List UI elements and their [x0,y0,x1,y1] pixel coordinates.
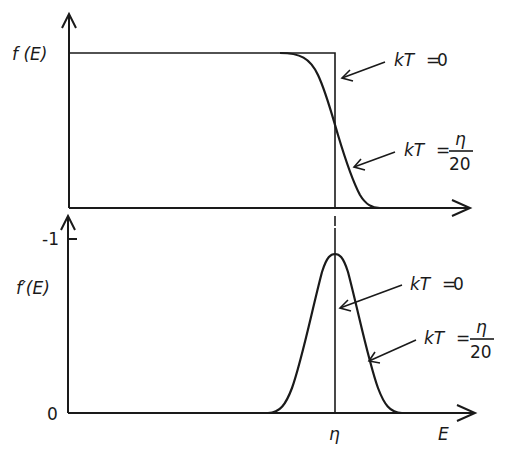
top-annot-kt0-kt: kT [394,50,416,70]
bottom-annot-kt20-den: 20 [470,342,492,362]
fermi-dirac-diagram: f (E) kT = 0 kT = η 20 -1 f′(E) 0 η E [0,0,510,454]
fermi-curve-kt-eta-20 [280,53,380,208]
top-annot-kt0-value: 0 [437,50,448,70]
arrow-kt-eta20-bottom [369,340,416,361]
bottom-y-label: f′(E) [16,278,50,298]
top-y-label: f (E) [12,44,47,64]
top-annot-kt20-den: 20 [449,154,471,174]
arrow-kt0-bottom [340,285,402,308]
bottom-annot-kt0-kt: kT [410,274,432,294]
top-panel: f (E) kT = 0 kT = η 20 [12,14,473,226]
arrow-kt0-top [342,62,385,78]
bottom-annot-kt20-eq: = [456,328,470,348]
y-tick-label-minus-one: -1 [42,229,59,249]
bottom-annot-kt20-num: η [476,317,487,337]
y-tick-label-zero: 0 [47,404,58,424]
bottom-annot-kt20-kt: kT [424,328,446,348]
top-annot-kt20-num: η [455,129,466,149]
step-function-kt0 [69,53,335,208]
bottom-panel: -1 f′(E) 0 η E kT = 0 kT = η 20 [16,216,494,444]
bottom-annot-kt0-value: 0 [453,274,464,294]
x-axis-label-e: E [438,424,449,444]
top-annot-kt20-kt: kT [404,140,426,160]
x-tick-label-eta: η [329,424,340,444]
